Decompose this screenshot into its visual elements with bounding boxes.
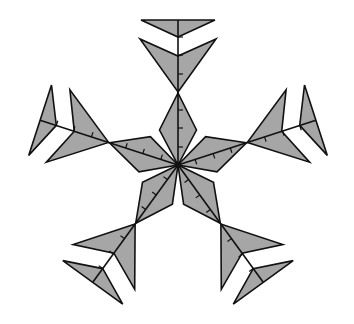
arm-left: [29, 85, 178, 172]
snowflake-figure: [0, 0, 354, 324]
cap-triangle: [233, 261, 293, 305]
arm-bottom-right: [178, 165, 293, 304]
arm-bottom-left: [63, 165, 178, 304]
cap-triangle: [63, 261, 123, 305]
arm-right: [178, 85, 327, 172]
center-hub: [175, 162, 181, 168]
